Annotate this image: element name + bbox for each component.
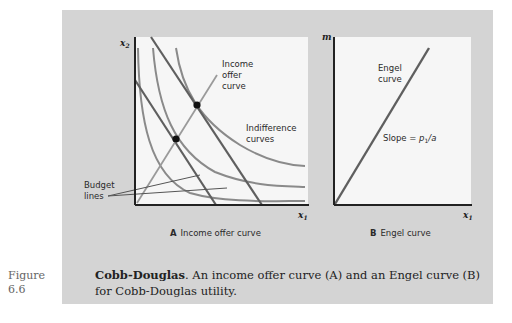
indifference-label-1: Indifference	[246, 123, 297, 133]
plot-a-title: AIncome offer curve	[170, 228, 261, 238]
slope-label: Slope = p1/a	[383, 133, 436, 144]
tangency-point-1	[172, 135, 179, 142]
income-offer-label-1: Income	[222, 59, 253, 69]
income-offer-label-3: curve	[222, 81, 246, 91]
plot-a-income-offer-curve: x2 x1 Income offer curve Indifference cu…	[84, 37, 309, 238]
income-offer-label-2: offer	[222, 70, 242, 80]
plot-b-area	[334, 37, 471, 205]
plot-b-engel-curve: m x1 Engel curve Slope = p1/a BEngel cur…	[322, 32, 473, 238]
budget-label-1: Budget	[84, 180, 115, 190]
engel-label-1: Engel	[378, 63, 402, 73]
plot-a-y-label: x2	[119, 38, 130, 49]
caption-title: Cobb-Douglas	[95, 268, 185, 282]
plot-b-x-label: x1	[462, 210, 473, 221]
figure-number: Figure 6.6	[8, 269, 45, 297]
indifference-label-2: curves	[246, 134, 275, 144]
plot-b-title: BEngel curve	[370, 228, 431, 238]
budget-label-2: lines	[84, 191, 104, 201]
figure-label-word: Figure	[8, 269, 45, 283]
figure-label-number: 6.6	[8, 283, 45, 297]
engel-label-2: curve	[378, 74, 402, 84]
figure-caption: Cobb-Douglas. An income offer curve (A) …	[95, 267, 495, 299]
plot-b-y-label: m	[322, 32, 332, 42]
tangency-point-2	[193, 101, 200, 108]
plot-a-x-label: x1	[297, 210, 308, 221]
